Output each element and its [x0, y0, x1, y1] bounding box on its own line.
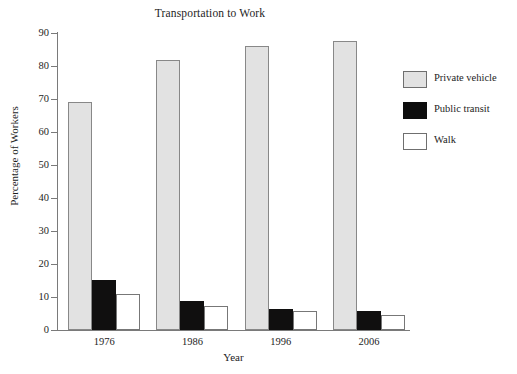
y-tick-label: 40 [29, 193, 49, 204]
y-tick-label: 70 [29, 94, 49, 105]
y-tick-label: 60 [29, 127, 49, 138]
bar-group [333, 33, 405, 330]
legend-label: Public transit [434, 103, 490, 114]
x-axis-line [57, 330, 410, 331]
bar[interactable] [293, 311, 317, 330]
bar[interactable] [116, 294, 140, 330]
bar[interactable] [269, 309, 293, 330]
bar[interactable] [333, 41, 357, 330]
y-tick-label: 30 [29, 226, 49, 237]
legend-swatch-icon [403, 133, 427, 150]
y-tick-label: 50 [29, 160, 49, 171]
y-tick-mark [51, 330, 57, 331]
y-tick-label: 10 [29, 292, 49, 303]
bar[interactable] [245, 46, 269, 330]
bar-group [68, 33, 140, 330]
legend-swatch-icon [403, 102, 427, 119]
y-axis-tick-labels: 0102030405060708090 [23, 0, 49, 374]
y-axis-title: Percentage of Workers [8, 56, 20, 256]
x-axis-title: Year [57, 351, 410, 363]
bar[interactable] [357, 311, 381, 330]
bar-group [156, 33, 228, 330]
legend-label: Private vehicle [434, 72, 497, 83]
y-tick-label: 90 [29, 28, 49, 39]
x-tick-label: 1996 [235, 336, 327, 347]
bar[interactable] [204, 306, 228, 330]
y-tick-label: 20 [29, 259, 49, 270]
x-tick-label: 2006 [323, 336, 415, 347]
y-tick-label: 80 [29, 61, 49, 72]
y-tick-label: 0 [29, 325, 49, 336]
plot-area [57, 33, 410, 330]
legend-label: Walk [434, 134, 456, 145]
bar[interactable] [180, 301, 204, 330]
legend-swatch-icon [403, 71, 427, 88]
bar[interactable] [156, 60, 180, 330]
bar[interactable] [381, 315, 405, 331]
bar[interactable] [92, 280, 116, 330]
x-tick-label: 1986 [146, 336, 238, 347]
x-tick-label: 1976 [58, 336, 150, 347]
bar-group [245, 33, 317, 330]
bar[interactable] [68, 102, 92, 330]
chart-title: Transportation to Work [0, 7, 420, 19]
bar-chart: Transportation to Work 01020304050607080… [0, 0, 517, 374]
